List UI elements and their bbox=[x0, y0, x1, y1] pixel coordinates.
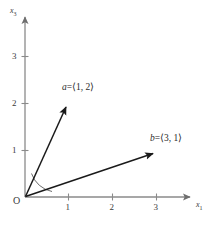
vector-a-components: =⟨1, 2⟩ bbox=[67, 82, 95, 92]
y-axis-label-sub: 3 bbox=[14, 11, 17, 17]
vector-a-arrow bbox=[26, 107, 67, 197]
y-tick-label-3: 3 bbox=[12, 52, 17, 61]
origin-label: O bbox=[13, 196, 20, 206]
x-axis-label-sub: 1 bbox=[200, 205, 203, 211]
x-tick-label-2: 2 bbox=[110, 203, 115, 212]
vector-diagram: O x3 x1 1 2 3 1 2 3 a=⟨1, 2⟩ b=⟨3, 1⟩ bbox=[0, 0, 216, 230]
y-tick-label-2: 2 bbox=[12, 99, 17, 108]
vector-b-arrow bbox=[26, 154, 154, 197]
vector-b-label: b=⟨3, 1⟩ bbox=[150, 134, 182, 144]
y-axis-label: x3 bbox=[10, 7, 17, 17]
vector-a-label: a=⟨1, 2⟩ bbox=[62, 83, 94, 93]
x-tick-label-3: 3 bbox=[154, 203, 159, 212]
y-tick-label-1: 1 bbox=[12, 146, 17, 155]
vector-b-components: =⟨3, 1⟩ bbox=[155, 133, 183, 143]
x-axis-label: x1 bbox=[196, 201, 203, 211]
diagram-canvas bbox=[0, 0, 216, 230]
x-tick-label-1: 1 bbox=[66, 203, 71, 212]
